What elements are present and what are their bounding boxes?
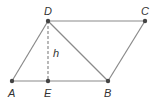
label-a: A (7, 87, 15, 99)
point-e (46, 79, 50, 83)
label-e: E (44, 87, 52, 99)
label-h: h (53, 47, 59, 59)
point-a (10, 79, 14, 83)
segment-bc (108, 21, 145, 81)
segment-ad (12, 21, 48, 81)
point-c (143, 19, 147, 23)
label-b: B (104, 87, 111, 99)
point-b (106, 79, 110, 83)
point-d (46, 19, 50, 23)
label-d: D (44, 5, 52, 17)
label-c: C (141, 5, 149, 17)
parallelogram-diagram: D C A E B h (0, 0, 161, 107)
